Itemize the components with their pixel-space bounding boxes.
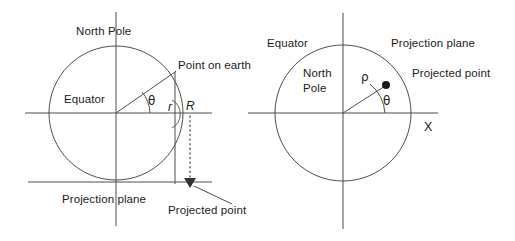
label-projected-point-right: Projected point — [412, 68, 490, 80]
label-point-on-earth: Point on earth — [178, 60, 251, 72]
label-theta-left: θ — [148, 95, 155, 107]
label-projection-plane-right: Projection plane — [391, 38, 475, 50]
r-tick-arc — [172, 100, 180, 128]
projected-point-leader — [194, 186, 232, 204]
label-projected-point-left: Projected point — [168, 205, 246, 217]
label-R-large: R — [186, 100, 195, 112]
point-on-earth-leader — [175, 71, 176, 72]
label-north-pole-left: North Pole — [76, 26, 131, 38]
label-equator-left: Equator — [64, 94, 105, 106]
figure-container: North Pole Equator θ r R Point on earth … — [0, 0, 515, 241]
label-projection-plane-left: Projection plane — [62, 194, 146, 206]
label-theta-right: θ — [383, 95, 390, 107]
label-rho: ρ — [361, 71, 369, 83]
label-equator-right: Equator — [267, 38, 308, 50]
label-x-axis: X — [424, 121, 432, 134]
label-north-pole-right-line1: North — [303, 68, 332, 80]
projected-point-dot — [382, 81, 390, 89]
radius-R-line — [116, 72, 175, 113]
label-north-pole-right-line2: Pole — [303, 83, 326, 95]
label-r-small: r — [168, 101, 172, 113]
rho-line — [343, 86, 385, 113]
